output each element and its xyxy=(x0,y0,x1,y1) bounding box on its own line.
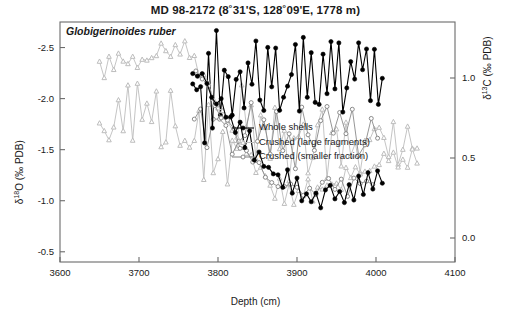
data-point xyxy=(352,198,356,202)
y-right-tick-label: 0.5 xyxy=(462,152,492,163)
y-left-tick-label: -2.5 xyxy=(24,42,54,53)
data-point xyxy=(349,60,353,64)
data-point xyxy=(415,146,420,150)
data-point xyxy=(246,61,250,65)
data-point xyxy=(191,82,195,86)
data-point xyxy=(154,89,159,93)
x-tick-label: 3700 xyxy=(119,267,159,278)
data-point xyxy=(357,174,361,178)
data-point xyxy=(309,200,313,204)
data-point xyxy=(290,191,294,195)
data-point xyxy=(135,65,140,69)
data-point xyxy=(225,182,230,186)
data-point xyxy=(304,192,308,196)
data-point xyxy=(97,121,102,125)
data-point xyxy=(159,41,164,45)
data-point xyxy=(266,45,270,49)
data-point xyxy=(191,72,195,76)
data-point xyxy=(273,196,278,200)
y-right-tick-label: 1.0 xyxy=(462,72,492,83)
data-point xyxy=(369,116,373,120)
data-point xyxy=(321,52,325,56)
data-point xyxy=(276,185,280,189)
data-point xyxy=(205,81,209,85)
data-point xyxy=(281,95,285,99)
data-point xyxy=(226,75,230,79)
data-point xyxy=(344,165,349,169)
x-tick-label: 3600 xyxy=(40,267,80,278)
x-axis-label: Depth (cm) xyxy=(0,296,511,307)
data-point xyxy=(214,102,218,106)
data-point xyxy=(345,86,349,90)
data-point xyxy=(301,35,305,39)
data-point xyxy=(391,150,396,154)
y-axis-right-label: δ13C (‰ PDB) xyxy=(481,13,493,123)
data-point xyxy=(270,85,274,89)
data-point xyxy=(238,146,242,150)
data-point xyxy=(192,117,196,121)
data-point xyxy=(211,170,216,174)
data-point xyxy=(243,146,247,150)
data-point xyxy=(410,147,415,151)
data-point xyxy=(262,108,266,112)
data-point xyxy=(306,171,311,175)
data-point xyxy=(248,129,252,133)
data-point xyxy=(309,51,313,55)
legend-label-3: Crushed (smaller fraction) xyxy=(259,150,368,161)
figure-root: MD 98-2172 (8˚31'S, 128˚09'E, 1778 m) Gl… xyxy=(0,0,511,317)
data-point xyxy=(329,40,333,44)
data-point xyxy=(353,165,358,169)
data-point xyxy=(241,126,245,130)
data-point xyxy=(266,165,270,169)
data-point xyxy=(230,152,234,156)
data-point xyxy=(183,39,188,43)
data-point xyxy=(130,54,135,58)
data-point xyxy=(130,138,135,142)
data-point xyxy=(293,42,297,46)
y-right-tick-label: 0.0 xyxy=(462,232,492,243)
x-tick-label: 4100 xyxy=(435,267,475,278)
data-point xyxy=(375,169,379,173)
data-point xyxy=(254,39,258,43)
data-point xyxy=(339,164,344,168)
data-point xyxy=(201,177,206,181)
data-point xyxy=(195,88,199,92)
data-point xyxy=(149,55,154,59)
data-point xyxy=(327,177,331,181)
data-point xyxy=(263,175,267,179)
data-point xyxy=(320,107,325,111)
data-point xyxy=(219,116,223,120)
data-point xyxy=(205,146,209,150)
data-point xyxy=(187,55,192,59)
data-point xyxy=(325,105,329,109)
data-point xyxy=(300,105,304,109)
data-point xyxy=(238,70,242,74)
data-point xyxy=(140,117,145,121)
data-point xyxy=(222,68,226,72)
data-point xyxy=(195,74,199,78)
data-point xyxy=(319,206,323,210)
data-point xyxy=(149,119,154,123)
data-point xyxy=(372,164,377,168)
data-point xyxy=(377,125,382,129)
data-point xyxy=(192,53,197,57)
data-point xyxy=(368,99,372,103)
data-point xyxy=(353,77,357,81)
data-point xyxy=(242,106,246,110)
data-point xyxy=(305,95,309,99)
data-point xyxy=(233,130,237,134)
x-tick-label: 3900 xyxy=(277,267,317,278)
x-tick-label: 3800 xyxy=(198,267,238,278)
data-point xyxy=(313,100,317,104)
data-point xyxy=(173,42,178,46)
data-point xyxy=(401,157,406,161)
data-point xyxy=(220,129,225,133)
data-point xyxy=(224,115,228,119)
data-point xyxy=(121,128,126,132)
data-point xyxy=(337,41,341,45)
legend-marker-3 xyxy=(241,155,245,159)
data-point xyxy=(121,59,126,63)
data-point xyxy=(210,95,214,99)
data-point xyxy=(338,189,342,193)
data-point xyxy=(319,119,323,123)
